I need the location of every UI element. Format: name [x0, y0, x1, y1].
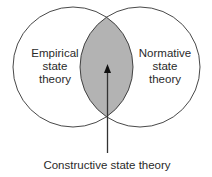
left-label-line-2: state	[43, 60, 68, 72]
right-label-line-2: state	[153, 60, 178, 72]
right-label-line-3: theory	[149, 73, 181, 85]
intersection-label: Constructive state theory	[43, 159, 170, 171]
intersection-region	[80, 7, 200, 127]
left-label-line-3: theory	[39, 73, 71, 85]
left-label-line-1: Empirical	[31, 47, 78, 59]
right-label-line-1: Normative	[139, 47, 191, 59]
venn-diagram: Empirical state theory Normative state t…	[0, 0, 212, 177]
left-set-label: Empirical state theory	[31, 47, 78, 85]
right-set-label: Normative state theory	[139, 47, 191, 85]
